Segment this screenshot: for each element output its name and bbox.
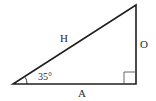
- angle-label: 35°: [38, 71, 52, 82]
- triangle: [13, 5, 136, 84]
- right-angle-marker: [124, 72, 136, 84]
- hypotenuse-label: H: [60, 32, 68, 44]
- angle-arc: [26, 78, 28, 85]
- adjacent-label: A: [78, 87, 86, 99]
- opposite-label: O: [140, 38, 148, 50]
- right-triangle-diagram: H O A 35°: [0, 0, 156, 101]
